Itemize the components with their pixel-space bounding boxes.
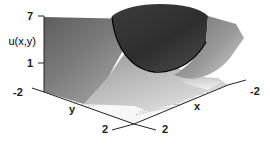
y-tick-label-near: 2 [102, 123, 108, 135]
x-tick-label-near: 2 [162, 123, 168, 135]
x-axis-label: x [194, 100, 201, 112]
y-tick-near [112, 124, 134, 130]
x-tick-far [228, 80, 246, 85]
x-tick-near [134, 124, 156, 130]
plot-canvas: 7 1 u(x,y) -2 2 y 2 -2 x [0, 0, 270, 148]
x-tick-label-far: -2 [250, 85, 260, 97]
z-axis-label: u(x,y) [9, 35, 37, 47]
y-axis-label: y [69, 103, 76, 115]
y-tick-label-far: -2 [13, 86, 23, 98]
y-tick-far [32, 88, 44, 92]
surface-mesh [44, 4, 244, 112]
z-tick-label-max: 7 [27, 10, 33, 22]
surface-plot-figure: 7 1 u(x,y) -2 2 y 2 -2 x [0, 0, 270, 148]
z-tick-label-min: 1 [27, 57, 33, 69]
